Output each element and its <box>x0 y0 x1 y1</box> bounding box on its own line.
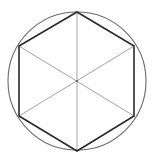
center-point <box>76 80 78 82</box>
hexagon-in-circle-diagram <box>0 0 152 163</box>
